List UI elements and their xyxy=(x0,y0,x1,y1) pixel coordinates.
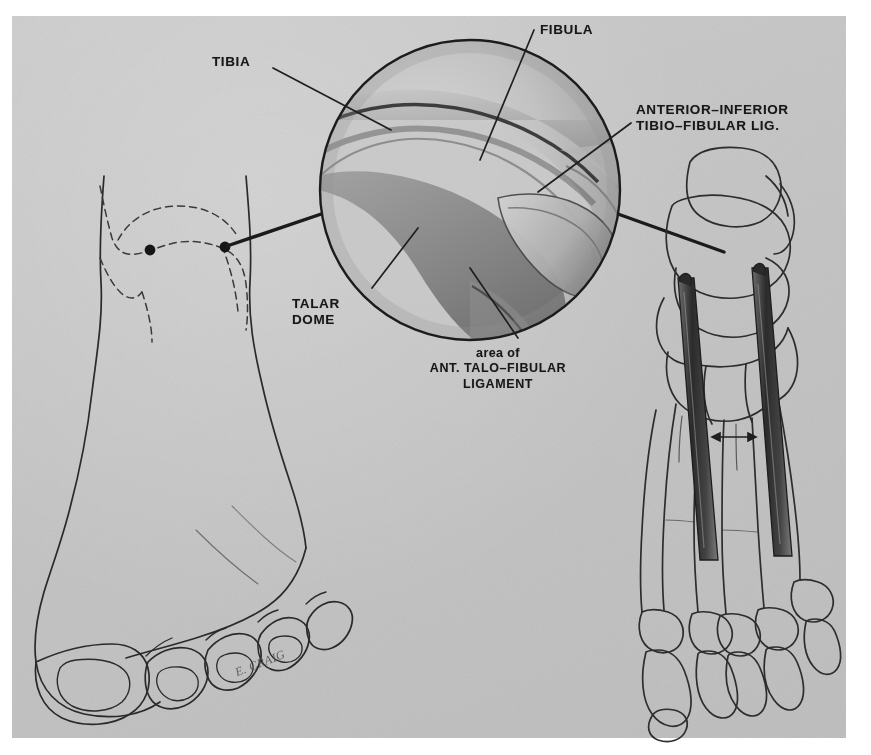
illustration-page: TIBIA FIBULA ANTERIOR–INFERIOR TIBIO–FIB… xyxy=(0,0,871,755)
label-talar-dome-line2: DOME xyxy=(292,312,340,328)
label-area-of-atfl: area of ANT. TALO–FIBULAR LIGAMENT xyxy=(404,346,592,392)
label-atfl-line2: ANT. TALO–FIBULAR xyxy=(404,361,592,376)
label-fibula: FIBULA xyxy=(540,22,593,38)
label-atfl-line3: LIGAMENT xyxy=(404,377,592,392)
label-tibia: TIBIA xyxy=(212,54,250,70)
label-talar-dome: TALAR DOME xyxy=(292,296,340,329)
label-talar-dome-line1: TALAR xyxy=(292,296,340,312)
label-atfl-line1: area of xyxy=(404,346,592,361)
label-aitfl-line2: TIBIO–FIBULAR LIG. xyxy=(636,118,789,134)
label-aitfl-line1: ANTERIOR–INFERIOR xyxy=(636,102,789,118)
label-anterior-inferior-tibiofibular-ligament: ANTERIOR–INFERIOR TIBIO–FIBULAR LIG. xyxy=(636,102,789,135)
